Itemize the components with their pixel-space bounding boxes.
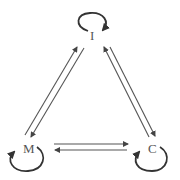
node-c-label: C — [148, 141, 157, 156]
edge-i-to-m — [31, 48, 84, 137]
edge-m-to-i — [25, 47, 77, 135]
state-diagram: I M C — [0, 0, 180, 180]
edge-i-to-c — [110, 47, 155, 136]
edge-c-to-i — [104, 47, 149, 137]
node-i-label: I — [90, 28, 94, 43]
node-m-label: M — [23, 141, 35, 156]
